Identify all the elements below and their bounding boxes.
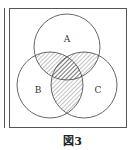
label-a: A	[63, 34, 71, 44]
label-c: C	[95, 85, 102, 95]
figure-caption: 図3	[0, 132, 131, 148]
label-b: B	[35, 85, 42, 95]
caption-text: 図3	[63, 135, 82, 148]
venn-diagram: A B C	[0, 0, 131, 150]
